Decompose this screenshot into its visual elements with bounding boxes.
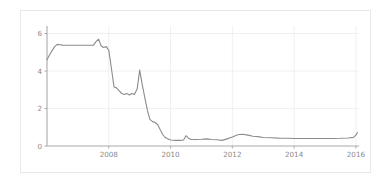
data-series-group [47,39,357,140]
x-axis-tick-labels: 20082010201220142016 [100,150,366,159]
x-tick-label: 2014 [285,150,304,159]
y-tick-label: 4 [37,67,42,76]
line-chart: 0246 20082010201220142016 [21,11,372,174]
y-tick-label: 0 [37,142,42,151]
figure-frame: 0246 20082010201220142016 [20,10,371,173]
chart-screenshot: 0246 20082010201220142016 [0,0,391,183]
x-tick-label: 2012 [223,150,241,159]
x-tick-label: 2016 [347,150,366,159]
y-tick-label: 2 [37,104,42,113]
x-tick-label: 2010 [161,150,180,159]
data-series-line [47,39,357,140]
x-tick-label: 2008 [100,150,119,159]
tick-marks [45,34,356,149]
y-axis-tick-labels: 0246 [37,29,42,151]
plot-area: 0246 20082010201220142016 [21,11,372,174]
y-tick-label: 6 [37,29,42,38]
